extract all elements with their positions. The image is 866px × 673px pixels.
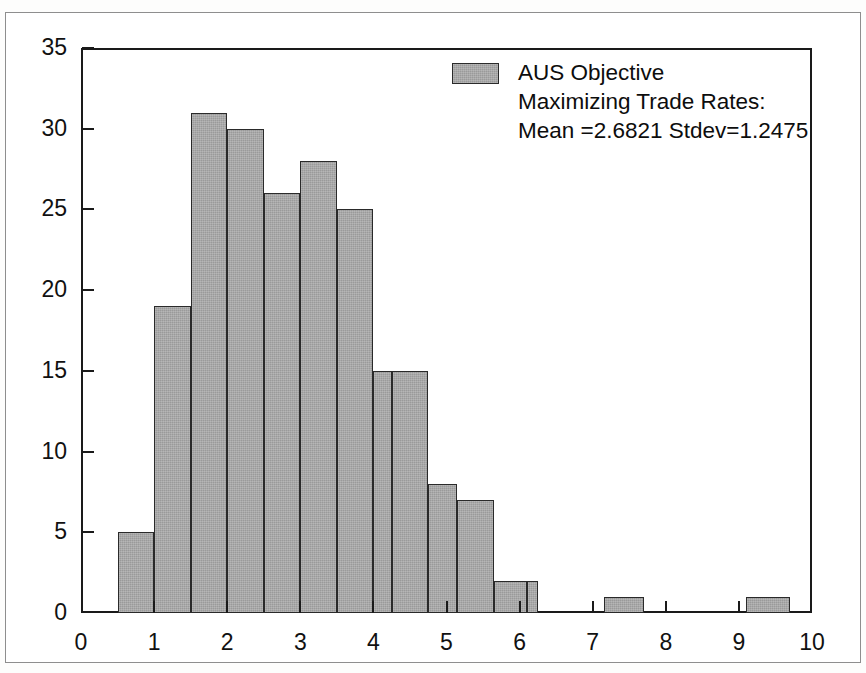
x-axis-tick-mark	[226, 601, 228, 613]
y-axis-tick-label: 0	[7, 601, 67, 624]
x-axis-tick-label: 0	[51, 631, 111, 654]
y-axis-tick-label: 10	[7, 440, 67, 463]
y-axis-tick-label: 5	[7, 520, 67, 543]
x-axis-tick-mark	[738, 601, 740, 613]
legend-swatch-aus-objective	[452, 63, 499, 84]
histogram-bar	[337, 209, 374, 613]
x-axis-tick-label: 3	[270, 631, 330, 654]
x-axis-tick-mark	[446, 601, 448, 613]
x-axis-tick-label: 5	[417, 631, 477, 654]
histogram-bar	[373, 371, 391, 613]
histogram-bar	[428, 484, 457, 613]
y-axis-tick-label: 30	[7, 117, 67, 140]
x-axis-tick-label: 2	[197, 631, 257, 654]
x-axis-tick-mark	[299, 601, 301, 613]
histogram-bar	[154, 306, 191, 613]
x-axis-tick-mark	[665, 601, 667, 613]
y-axis-tick-label: 15	[7, 359, 67, 382]
legend-line-1: AUS Objective	[518, 58, 808, 87]
x-axis-tick-label: 8	[636, 631, 696, 654]
histogram-bar	[457, 500, 494, 613]
legend-line-2: Maximizing Trade Rates:	[518, 87, 808, 116]
y-axis-tick-label: 35	[7, 36, 67, 59]
histogram-bar	[227, 129, 264, 613]
x-axis-tick-label: 6	[490, 631, 550, 654]
histogram-bar	[118, 532, 155, 613]
histogram-bar	[746, 597, 790, 613]
x-axis-tick-mark	[519, 601, 521, 613]
histogram-bar	[494, 581, 527, 613]
histogram-figure: 05101520253035 012345678910 AUS Objectiv…	[0, 0, 866, 673]
x-axis-tick-mark	[592, 601, 594, 613]
x-axis-tick-mark	[153, 601, 155, 613]
x-axis-tick-label: 4	[343, 631, 403, 654]
x-axis-tick-label: 10	[782, 631, 842, 654]
x-axis-tick-label: 1	[124, 631, 184, 654]
histogram-bar	[527, 581, 538, 613]
y-axis-tick-label: 25	[7, 197, 67, 220]
histogram-bar	[264, 193, 301, 613]
x-axis-tick-label: 7	[563, 631, 623, 654]
legend-text: AUS Objective Maximizing Trade Rates: Me…	[518, 58, 808, 145]
histogram-bar	[392, 371, 429, 613]
histogram-bar	[604, 597, 644, 613]
histogram-bar	[300, 161, 337, 613]
x-axis-tick-label: 9	[709, 631, 769, 654]
x-axis-tick-mark	[372, 601, 374, 613]
legend-line-3: Mean =2.6821 Stdev=1.2475	[518, 116, 808, 145]
histogram-bar	[191, 113, 228, 613]
y-axis-tick-label: 20	[7, 278, 67, 301]
